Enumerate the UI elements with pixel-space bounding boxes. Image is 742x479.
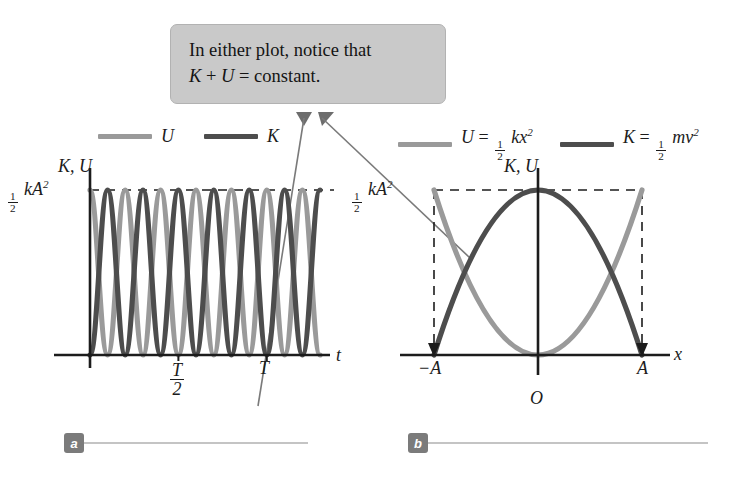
legend-swatch-u-icon bbox=[98, 134, 152, 139]
legend-entry-k-formula: K = 12 mv2 bbox=[560, 126, 699, 162]
callout-equals-constant: = constant. bbox=[239, 66, 320, 86]
panel-b-tick-label-a: A bbox=[637, 358, 648, 379]
fraction-one-half: 12 bbox=[656, 139, 666, 163]
figure-root: In either plot, notice that K + U = cons… bbox=[0, 0, 742, 479]
callout-line-1: In either plot, notice that bbox=[189, 37, 429, 63]
legend-label-k-formula: K = 12 mv2 bbox=[623, 126, 699, 162]
panel-a-rule bbox=[84, 442, 308, 444]
panel-b-y-tick-label: 12 kA2 bbox=[350, 178, 393, 214]
panel-b-y-axis-label: K, U bbox=[504, 156, 538, 177]
panel-b-plot: K, U 12 kA2 −A A O x bbox=[392, 160, 692, 375]
legend-label-k: K bbox=[267, 126, 279, 147]
panel-a-footer: a bbox=[64, 432, 308, 454]
panel-b-footer: b bbox=[408, 432, 708, 454]
panel-a-y-tick-label: 12 kA2 bbox=[6, 178, 49, 214]
fraction-one-half: 12 bbox=[352, 191, 362, 215]
fraction-t-over-2: T2 bbox=[170, 361, 184, 399]
panel-b-tick-label-minus-a: −A bbox=[418, 358, 441, 379]
legend-swatch-k-icon bbox=[204, 134, 258, 139]
panel-a-y-axis-label: K, U bbox=[58, 156, 92, 177]
panel-b-rule bbox=[428, 442, 708, 444]
panel-a-tick-label-half-period: T2 bbox=[168, 360, 186, 399]
panel-a-plot: K, U 12 kA2 T2 T t bbox=[44, 160, 344, 375]
legend-label-u: U bbox=[161, 126, 174, 147]
legend: U K U = 12 kx2 K = 12 mv2 bbox=[0, 126, 742, 152]
callout-symbol-k: K bbox=[189, 66, 201, 86]
fraction-one-half: 12 bbox=[8, 191, 18, 215]
panel-b-x-axis-label: x bbox=[674, 344, 682, 365]
panel-a-x-axis-label: t bbox=[336, 345, 341, 366]
panel-a-tick-label-period: T bbox=[259, 358, 269, 379]
panel-a-curve-k bbox=[90, 190, 320, 355]
legend-entry-u: U bbox=[98, 126, 174, 147]
legend-swatch-u-formula-icon bbox=[398, 142, 452, 147]
callout-tail-right bbox=[318, 112, 334, 126]
callout-symbol-u: U bbox=[221, 66, 234, 86]
panel-b-badge: b bbox=[408, 433, 428, 453]
panel-b-origin-label: O bbox=[530, 388, 543, 409]
legend-entry-k: K bbox=[204, 126, 279, 147]
panel-a-svg bbox=[44, 160, 344, 375]
callout-plus: + bbox=[206, 66, 216, 86]
legend-swatch-k-formula-icon bbox=[560, 142, 614, 147]
panel-b-svg bbox=[392, 160, 692, 375]
callout-box: In either plot, notice that K + U = cons… bbox=[170, 24, 446, 104]
panel-a-badge: a bbox=[64, 433, 84, 453]
callout-line-2: K + U = constant. bbox=[189, 63, 429, 89]
